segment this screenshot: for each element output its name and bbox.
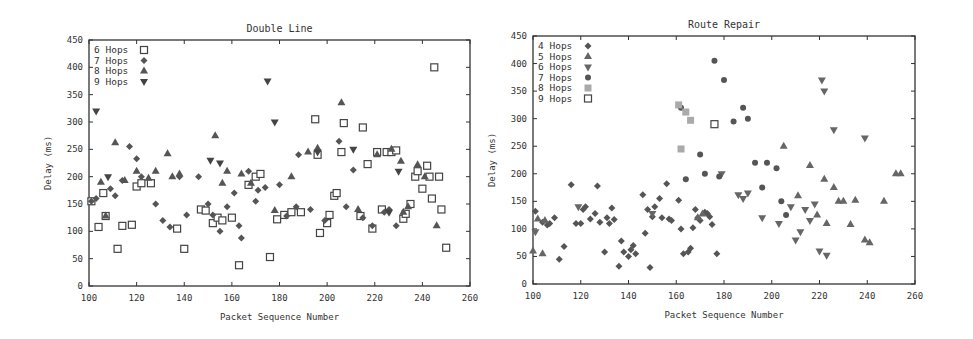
open-square-marker xyxy=(202,207,209,214)
legend: 6 Hops7 Hops8 Hops9 Hops xyxy=(94,44,148,87)
diamond-marker xyxy=(216,228,223,235)
circle-marker xyxy=(764,160,770,166)
x-tick-label: 100 xyxy=(525,291,541,301)
triangle-up-marker xyxy=(794,191,802,198)
triangle-down-marker xyxy=(758,215,766,222)
y-tick-label: 350 xyxy=(67,90,83,100)
chart-double-line: Double Line100120140160180200220240260Pa… xyxy=(0,0,486,339)
triangle-up-marker xyxy=(111,138,119,145)
triangle-down-marker xyxy=(861,135,869,142)
chart-route-repair: Route Repair100120140160180200220240260P… xyxy=(486,0,973,339)
open-square-marker xyxy=(428,195,435,202)
diamond-marker xyxy=(238,234,245,241)
diamond-marker xyxy=(262,184,269,191)
circle-marker xyxy=(721,77,727,83)
triangle-down-marker xyxy=(801,207,809,214)
triangle-down-marker xyxy=(818,78,826,85)
y-tick-label: 0 xyxy=(522,279,527,289)
diamond-marker xyxy=(141,57,148,64)
triangle-up-marker xyxy=(397,157,405,164)
diamond-marker xyxy=(596,219,603,226)
circle-marker xyxy=(716,174,722,180)
series-6-hops xyxy=(531,78,868,260)
triangle-up-marker xyxy=(271,206,279,213)
y-tick-label: 200 xyxy=(67,172,83,182)
diamond-marker xyxy=(255,187,262,194)
y-tick-label: 300 xyxy=(67,117,83,127)
y-tick-label: 250 xyxy=(67,144,83,154)
diamond-marker xyxy=(663,180,670,187)
triangle-down-marker xyxy=(816,248,824,255)
diamond-marker xyxy=(692,206,699,213)
diamond-marker xyxy=(107,185,114,192)
legend-label: 8 Hops xyxy=(538,82,572,93)
diamond-marker xyxy=(133,155,140,162)
diamond-marker xyxy=(159,217,166,224)
diamond-marker xyxy=(651,203,658,210)
open-square-marker xyxy=(436,173,443,180)
diamond-marker xyxy=(205,201,212,208)
open-square-marker xyxy=(316,229,323,236)
triangle-up-marker xyxy=(152,167,160,174)
triangle-up-marker xyxy=(211,131,219,138)
triangle-up-marker xyxy=(237,169,245,176)
open-square-marker xyxy=(257,170,264,177)
open-square-marker xyxy=(266,254,273,261)
y-tick-label: 250 xyxy=(511,141,527,151)
diamond-marker xyxy=(646,264,653,271)
triangle-down-marker xyxy=(104,174,112,181)
open-square-marker xyxy=(431,64,438,71)
open-square-marker xyxy=(138,180,145,187)
open-square-marker xyxy=(419,185,426,192)
open-square-marker xyxy=(438,206,445,213)
diamond-marker xyxy=(656,195,663,202)
open-square-marker xyxy=(274,216,281,223)
open-square-marker xyxy=(364,161,371,168)
diamond-marker xyxy=(556,256,563,263)
triangle-down-marker xyxy=(140,79,148,86)
legend-label: 9 Hops xyxy=(94,76,128,87)
open-square-marker xyxy=(236,262,243,269)
triangle-up-marker xyxy=(218,179,226,186)
triangle-up-marker xyxy=(145,174,153,181)
filled-square-marker xyxy=(682,109,689,116)
triangle-up-marker xyxy=(414,160,422,167)
triangle-up-marker xyxy=(584,52,592,59)
x-axis-label: Packet Sequence Number xyxy=(664,310,784,320)
triangle-down-marker xyxy=(92,109,100,116)
y-axis-label: Delay (ms) xyxy=(43,136,53,190)
series-5-hops xyxy=(529,142,905,256)
y-tick-label: 100 xyxy=(511,224,527,234)
diamond-marker xyxy=(307,206,314,213)
y-tick-label: 100 xyxy=(67,226,83,236)
legend-label: 7 Hops xyxy=(94,55,128,66)
open-square-marker xyxy=(119,222,126,229)
x-tick-label: 180 xyxy=(271,293,287,303)
diamond-marker xyxy=(601,249,608,256)
triangle-down-marker xyxy=(739,196,747,203)
circle-marker xyxy=(752,160,758,166)
diamond-marker xyxy=(126,143,133,150)
open-square-marker xyxy=(228,214,235,221)
diamond-marker xyxy=(709,221,716,228)
open-square-marker xyxy=(711,121,718,128)
filled-square-marker xyxy=(675,101,682,108)
diamond-marker xyxy=(252,198,259,205)
triangle-down-marker xyxy=(806,218,814,225)
diamond-marker xyxy=(245,168,252,175)
chart-double-line-svg: Double Line100120140160180200220240260Pa… xyxy=(0,0,486,339)
diamond-marker xyxy=(561,243,568,250)
diamond-marker xyxy=(678,225,685,232)
legend-label: 6 Hops xyxy=(94,44,128,55)
triangle-up-marker xyxy=(534,214,542,221)
series-9-hops xyxy=(92,79,402,217)
diamond-marker xyxy=(675,197,682,204)
y-tick-label: 300 xyxy=(511,114,527,124)
circle-marker xyxy=(759,185,765,191)
open-square-marker xyxy=(297,209,304,216)
legend-label: 7 Hops xyxy=(538,72,572,83)
diamond-marker xyxy=(350,167,357,174)
series-6-hops xyxy=(88,64,450,269)
triangle-up-marker xyxy=(433,221,441,228)
diamond-marker xyxy=(592,210,599,217)
